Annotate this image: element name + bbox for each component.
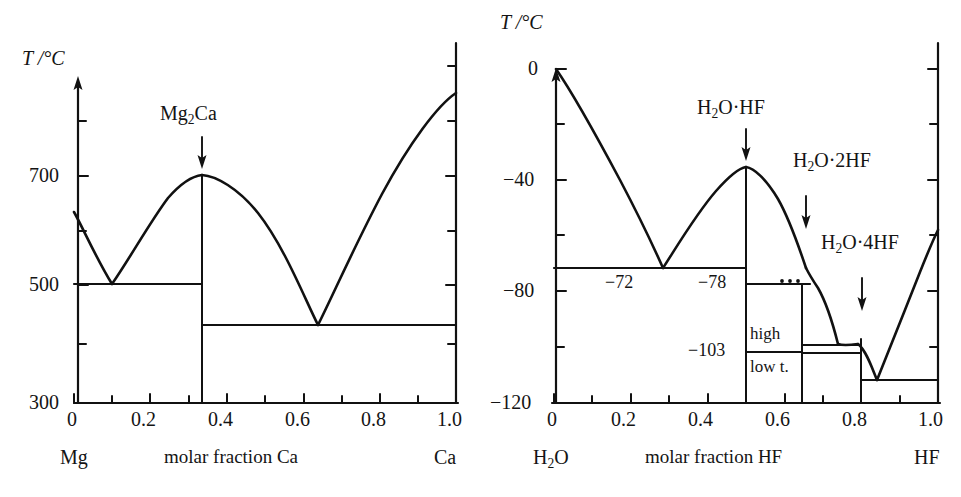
right-y-tick-120: −120	[490, 392, 531, 412]
right-region-label-high: high	[750, 325, 780, 342]
left-x-tick-08: 0.8	[361, 409, 386, 429]
right-compound-label-h2o2hf: H2O·2HF	[793, 150, 871, 173]
right-arrow-h2o2hf	[802, 196, 811, 229]
left-liquidus-compound-right	[202, 175, 318, 325]
left-liquidus-ca	[318, 93, 456, 325]
right-y-ticks	[556, 69, 566, 403]
right-compound-label-h2o4hf: H2O·4HF	[821, 232, 899, 255]
right-compound-label-h2ohf: H2O·HF	[697, 97, 765, 120]
right-right-border-ticks	[928, 69, 938, 347]
left-x-tick-06: 0.6	[285, 409, 310, 429]
left-compound-arrow	[198, 137, 207, 169]
right-inline-value-78: −78	[698, 273, 726, 291]
right-y-tick-40: −40	[503, 169, 534, 189]
right-x-tick-04: 0.4	[688, 409, 713, 429]
right-inline-value-103: −103	[688, 341, 725, 359]
right-y-axis-title: T /°C	[500, 12, 543, 32]
left-x-tick-04: 0.4	[208, 409, 233, 429]
left-x-tick-0: 0	[67, 409, 77, 429]
right-x-tick-0: 0	[547, 409, 557, 429]
right-liquidus-ice	[556, 69, 663, 268]
left-compound-label: Mg2Ca	[160, 103, 217, 126]
right-component-label-right-panel: HF	[914, 447, 940, 467]
left-y-tick-700: 700	[29, 165, 59, 185]
left-right-border-ticks	[446, 66, 456, 344]
right-liquidus-h2ohf-left	[663, 167, 746, 268]
right-inline-value-72: −72	[605, 273, 633, 291]
left-x-caption: molar fraction Ca	[164, 447, 298, 466]
left-y-axis-title: T /°C	[22, 48, 65, 68]
right-liquidus-h2o2hf	[806, 268, 838, 344]
right-x-tick-02: 0.2	[611, 409, 636, 429]
left-x-tick-10: 1.0	[437, 409, 462, 429]
right-x-caption: molar fraction HF	[645, 447, 782, 466]
right-x-tick-10: 1.0	[918, 409, 943, 429]
left-y-tick-500: 500	[29, 274, 59, 294]
right-dots-marker	[780, 279, 800, 283]
right-y-tick-0: 0	[528, 58, 538, 78]
right-component-label-left-panel: Ca	[434, 447, 456, 467]
left-liquidus-compound-left	[112, 175, 202, 284]
left-x-ticks	[74, 394, 456, 403]
left-component-label: Mg	[60, 447, 88, 467]
right-arrow-h2ohf	[742, 129, 751, 161]
left-y-axis	[74, 76, 83, 403]
right-left-component-label: H2O	[533, 447, 569, 470]
phase-diagram-figure: T /°C 700 500 300 0 0.2 0.4 0.6 0.8 1.0 …	[0, 0, 961, 497]
left-y-ticks	[78, 121, 88, 403]
left-y-tick-300: 300	[29, 392, 59, 412]
right-liquidus-h2ohf-right	[746, 167, 806, 268]
right-x-tick-08: 0.8	[842, 409, 867, 429]
right-region-label-lowt: low t.	[750, 358, 789, 375]
right-liquidus-h2o4hf-flat	[838, 344, 858, 345]
left-x-tick-02: 0.2	[131, 409, 156, 429]
left-liquidus-mg	[74, 212, 112, 284]
right-y-tick-80: −80	[503, 280, 534, 300]
right-arrow-h2o4hf	[858, 278, 867, 311]
right-x-tick-06: 0.6	[765, 409, 790, 429]
